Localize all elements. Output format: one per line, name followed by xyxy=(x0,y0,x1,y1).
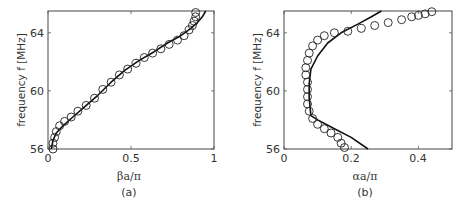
xtick-0.4-b: 0.4 xyxy=(409,152,427,165)
ylabel-b: frequency f [MHz] xyxy=(251,33,263,127)
ytick-60-a: 60 xyxy=(30,85,44,98)
xtick-0.5-a: 0.5 xyxy=(122,152,140,165)
measured-marker xyxy=(320,32,328,40)
panel-a: 64 60 56 0 0.5 1 βa/π frequency f [MHz] … xyxy=(15,9,218,200)
figure: 64 60 56 0 0.5 1 βa/π frequency f [MHz] … xyxy=(0,0,468,204)
caption-a: (a) xyxy=(121,186,136,199)
plot-area-b xyxy=(284,8,452,152)
ytick-64-b: 64 xyxy=(266,27,280,40)
measured-marker xyxy=(371,22,379,30)
panel-b: 64 60 56 0 0.2 0.4 αa/π frequency f [MHz… xyxy=(251,8,452,199)
axes-box-a xyxy=(48,11,214,149)
ytick-56-b: 56 xyxy=(266,143,280,156)
measured-marker xyxy=(304,56,312,64)
xlabel-a: βa/π xyxy=(117,170,141,183)
ytick-64-a: 64 xyxy=(30,27,44,40)
measured-marker xyxy=(330,29,338,37)
xtick-0.2-b: 0.2 xyxy=(342,152,360,165)
measured-marker xyxy=(384,19,392,27)
xtick-0-a: 0 xyxy=(45,152,52,165)
measured-marker xyxy=(357,24,365,32)
ylabel-a: frequency f [MHz] xyxy=(15,33,27,127)
xlabel-b: αa/π xyxy=(353,170,378,183)
xtick-0-b: 0 xyxy=(281,152,288,165)
caption-b: (b) xyxy=(357,186,373,199)
ytick-56-a: 56 xyxy=(30,143,44,156)
measured-marker xyxy=(305,107,313,115)
ytick-60-b: 60 xyxy=(266,85,280,98)
measured-marker xyxy=(304,93,312,101)
measured-marker xyxy=(398,16,406,24)
measured-marker xyxy=(428,8,436,16)
xtick-1-a: 1 xyxy=(211,152,218,165)
plot-area-a xyxy=(48,9,214,154)
